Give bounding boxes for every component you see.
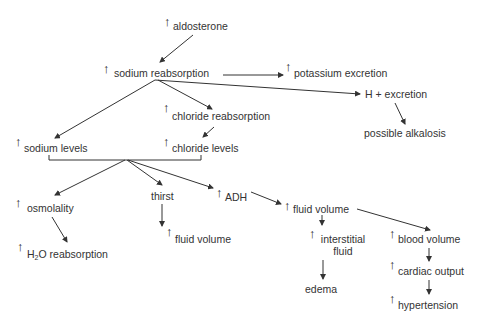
node-edema: edema [305,283,337,295]
increase-arrow-icon: ↑ [216,186,223,199]
node-cardiac-output: cardiac output [398,265,464,277]
node-chloride-reabsorption: chloride reabsorption [172,110,270,122]
increase-arrow-icon: ↑ [389,292,396,305]
aldosterone-flowchart: ↑ aldosterone ↑ sodium reabsorption ↑ po… [0,0,487,324]
increase-arrow-icon: ↑ [15,135,22,148]
increase-arrow-icon: ↑ [17,240,24,253]
node-fluid-volume: fluid volume [293,203,349,215]
increase-arrow-icon: ↑ [164,15,171,28]
node-osmolality: osmolality [27,202,74,214]
node-chloride-levels: chloride levels [172,142,239,154]
increase-arrow-icon: ↑ [389,258,396,271]
node-potassium-excretion: potassium excretion [294,67,387,79]
node-sodium-reabsorption: sodium reabsorption [114,67,209,79]
increase-arrow-icon: ↑ [163,135,170,148]
increase-arrow-icon: ↑ [103,62,110,75]
node-blood-volume: blood volume [398,233,460,245]
increase-arrow-icon: ↑ [166,225,173,238]
node-adh: ADH [225,191,247,203]
node-h2o-reabsorption: H2O reabsorption [27,248,108,264]
increase-arrow-icon: ↑ [284,199,291,212]
node-fluid-volume-thirst: fluid volume [175,233,231,245]
node-interstitial-fluid: interstitial fluid [316,233,370,257]
node-aldosterone: aldosterone [173,20,228,32]
increase-arrow-icon: ↑ [309,227,316,240]
increase-arrow-icon: ↑ [163,101,170,114]
increase-arrow-icon: ↑ [285,60,292,73]
node-hypertension: hypertension [398,299,458,311]
node-h-excretion: H + excretion [365,88,427,100]
node-sodium-levels: sodium levels [24,142,88,154]
increase-arrow-icon: ↑ [15,196,22,209]
node-possible-alkalosis: possible alkalosis [364,127,446,139]
node-thirst: thirst [151,190,174,202]
increase-arrow-icon: ↑ [389,227,396,240]
